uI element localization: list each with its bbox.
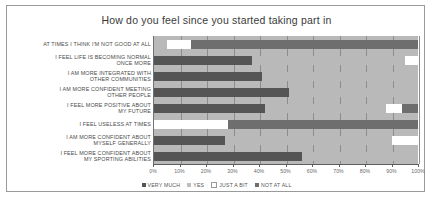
legend-label: JUST A BIT (219, 182, 248, 188)
bar-row (154, 40, 418, 49)
chart-frame: How do you feel since you started taking… (6, 5, 425, 192)
bar-segment (289, 88, 418, 97)
axis-tick (392, 164, 393, 167)
bar-segment (392, 136, 418, 145)
axis-tick (180, 164, 181, 167)
axis-tick-label: 0% (149, 168, 157, 174)
axis-tick-label: 70% (333, 168, 343, 174)
axis-tick (418, 164, 419, 167)
bar-segment (225, 136, 391, 145)
axis-tick-label: 40% (254, 168, 264, 174)
axis-tick-label: 80% (360, 168, 370, 174)
gridline (419, 36, 420, 164)
bar-row (154, 56, 418, 65)
bar-row (154, 120, 418, 129)
bar-segment (252, 56, 405, 65)
bar-row (154, 136, 418, 145)
bar-segment (154, 72, 262, 81)
legend-item: VERY MUCH (142, 182, 181, 188)
stacked-bars (153, 36, 418, 164)
legend-swatch (142, 183, 146, 187)
axis-tick-label: 30% (227, 168, 237, 174)
bar-segment (154, 56, 252, 65)
bar-segment (191, 40, 418, 49)
axis-tick (206, 164, 207, 167)
bar-segment (386, 104, 402, 113)
axis-tick-label: 20% (201, 168, 211, 174)
axis-tick (259, 164, 260, 167)
category-label: AT TIMES I THINK I'M NOT GOOD AT ALL (17, 41, 151, 47)
legend-label: NOT AT ALL (261, 182, 292, 188)
chart-legend: VERY MUCHYESJUST A BITNOT AT ALL (7, 182, 426, 188)
axis-tick-label: 10% (174, 168, 184, 174)
plot-area (153, 36, 418, 164)
axis-tick (339, 164, 340, 167)
legend-item: NOT AT ALL (255, 182, 292, 188)
category-label: I FEEL MORE POSITIVE ABOUTMY FUTURE (17, 102, 151, 115)
category-label: I FEEL MORE CONFIDENT ABOUTMY SPORTING A… (17, 150, 151, 163)
axis-tick-label: 90% (386, 168, 396, 174)
legend-swatch (211, 182, 217, 188)
axis-tick-label: 50% (280, 168, 290, 174)
axis-tick (153, 164, 154, 167)
bar-segment (154, 104, 265, 113)
category-label: I FEEL LIFE IS BECOMING NORMALONCE MORE (17, 54, 151, 67)
category-label: I AM MORE CONFIDENT ABOUTMYSELF GENERALL… (17, 134, 151, 147)
bar-row (154, 152, 418, 161)
axis-tick (312, 164, 313, 167)
bar-row (154, 104, 418, 113)
axis-tick (233, 164, 234, 167)
legend-label: YES (193, 182, 204, 188)
bar-segment (262, 72, 418, 81)
bar-segment (154, 120, 228, 129)
category-label: I AM MORE INTEGRATED WITHOTHER COMMUNITI… (17, 70, 151, 83)
legend-swatch (255, 183, 259, 187)
category-axis-labels: AT TIMES I THINK I'M NOT GOOD AT ALLI FE… (17, 36, 151, 164)
bar-segment (405, 56, 418, 65)
bar-segment (154, 152, 302, 161)
legend-item: YES (187, 182, 204, 188)
value-axis: 0%10%20%30%40%50%60%70%80%90%100% (153, 164, 418, 165)
bar-segment (402, 104, 418, 113)
legend-item: JUST A BIT (211, 182, 248, 188)
bar-segment (154, 88, 289, 97)
chart-title: How do you feel since you started taking… (7, 14, 426, 26)
bar-segment (154, 40, 167, 49)
legend-swatch (187, 183, 191, 187)
axis-tick (365, 164, 366, 167)
bar-segment (154, 136, 225, 145)
axis-tick (286, 164, 287, 167)
legend-label: VERY MUCH (148, 182, 181, 188)
category-label: I AM MORE CONFIDENT MEETINGOTHER PEOPLE (17, 86, 151, 99)
axis-tick-label: 100% (411, 168, 424, 174)
axis-tick-label: 60% (307, 168, 317, 174)
bar-segment (228, 120, 418, 129)
bar-row (154, 88, 418, 97)
bar-segment (302, 152, 418, 161)
category-label: I FEEL USELESS AT TIMES (17, 121, 151, 127)
bar-row (154, 72, 418, 81)
bar-segment (265, 104, 386, 113)
bar-segment (167, 40, 191, 49)
